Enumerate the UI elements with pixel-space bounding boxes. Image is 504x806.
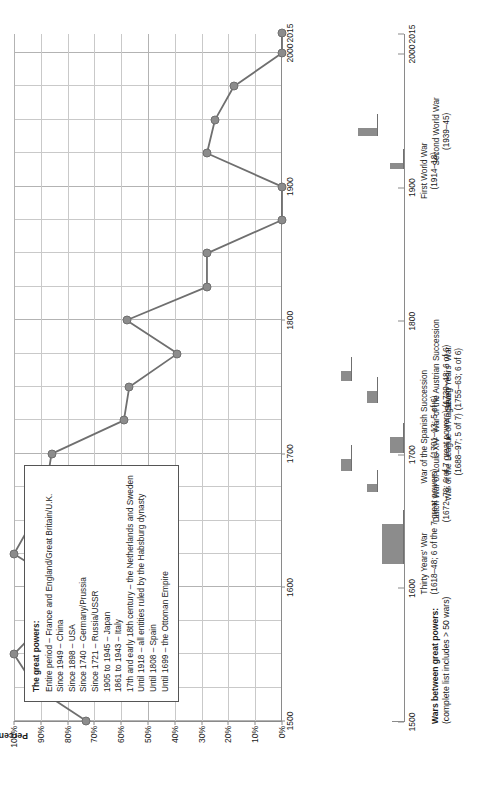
legend-item: Since 1898 – USA bbox=[67, 475, 79, 692]
figure: 0%10%20%30%40%50%60%70%80%90%100%1500160… bbox=[0, 0, 504, 806]
y-axis-tick-label: 70% bbox=[89, 726, 99, 768]
x-axis-tick-label: 1800 bbox=[285, 311, 295, 330]
wars-axis-tick-label: 1700 bbox=[407, 445, 417, 464]
war-caption-detail: (1755–63; 6 of 6) bbox=[454, 347, 464, 412]
data-point-marker bbox=[278, 49, 287, 58]
legend-item: Since 1949 – China bbox=[55, 475, 67, 692]
data-point-marker bbox=[202, 149, 211, 158]
y-axis-tick-mark bbox=[255, 721, 256, 725]
wars-axis-tick-label: 1900 bbox=[407, 178, 417, 197]
x-axis-tick-label: 1500 bbox=[285, 712, 295, 731]
y-axis-tick-mark bbox=[121, 721, 122, 725]
legend-title: The great powers: bbox=[31, 475, 43, 692]
war-caption-name: Seven Years' War bbox=[444, 347, 454, 412]
y-axis-tick-label: 20% bbox=[223, 726, 233, 768]
y-axis-tick-label: 40% bbox=[170, 726, 180, 768]
war-leader-line bbox=[403, 510, 404, 564]
x-axis-tick-label: 2015 bbox=[285, 24, 295, 43]
wars-panel-heading: Wars between great powers: (complete lis… bbox=[430, 597, 452, 724]
x-axis-tick-label: 2000 bbox=[285, 44, 295, 63]
y-axis-tick-label: 0% bbox=[277, 726, 287, 768]
wars-axis-tick-mark bbox=[398, 321, 404, 322]
wars-axis-tick-label: 1600 bbox=[407, 579, 417, 598]
y-axis-tick-label: 80% bbox=[63, 726, 73, 768]
data-point-marker bbox=[82, 717, 91, 726]
legend-item: 17th and early 18th century – the Nether… bbox=[125, 475, 137, 692]
data-point-marker bbox=[278, 29, 287, 38]
war-caption-detail: (1939–45) bbox=[442, 97, 452, 165]
great-powers-legend: The great powers: Entire period – France… bbox=[24, 465, 179, 702]
y-axis-tick-mark bbox=[282, 721, 283, 725]
wars-axis-tick-mark bbox=[398, 588, 404, 589]
legend-item: 1861 to 1943 – Italy bbox=[113, 475, 125, 692]
y-axis-tick-label: 90% bbox=[36, 726, 46, 768]
wars-axis-tick-mark bbox=[398, 187, 404, 188]
y-axis-tick-mark bbox=[67, 721, 68, 725]
legend-item: Until 1808 – Spain bbox=[148, 475, 160, 692]
war-bar bbox=[358, 128, 378, 136]
war-leader-line bbox=[351, 445, 352, 471]
x-axis-tick-label: 1600 bbox=[285, 578, 295, 597]
war-caption-name: War of the Spanish Succession bbox=[420, 370, 430, 483]
y-axis-tick-label: 60% bbox=[116, 726, 126, 768]
war-leader-line bbox=[351, 357, 352, 382]
war-leader-line bbox=[403, 423, 404, 453]
war-leader-line bbox=[377, 377, 378, 403]
war-caption-name: War of the Austrian Succession bbox=[432, 319, 442, 432]
legend-item: Until 1918 – all entities ruled by the H… bbox=[136, 475, 148, 692]
war-caption-name: Second World War bbox=[432, 97, 442, 165]
wars-panel-subtitle: (complete list includes > 50 wars) bbox=[441, 597, 451, 724]
wars-axis-tick-label: 1500 bbox=[407, 713, 417, 732]
war-bar bbox=[382, 524, 404, 564]
data-point-marker bbox=[278, 216, 287, 225]
y-axis-label: Percentage of years in which the great p… bbox=[0, 731, 28, 741]
rotated-figure-stage: 0%10%20%30%40%50%60%70%80%90%100%1500160… bbox=[0, 0, 504, 806]
war-caption: Seven Years' War(1755–63; 6 of 6) bbox=[444, 347, 465, 412]
wars-axis-tick-label: 1800 bbox=[407, 312, 417, 331]
war-caption: Second World War(1939–45) bbox=[432, 97, 453, 165]
data-point-marker bbox=[10, 650, 19, 659]
data-point-marker bbox=[125, 383, 134, 392]
y-axis-tick-label: 10% bbox=[250, 726, 260, 768]
war-bar bbox=[390, 437, 404, 453]
data-point-marker bbox=[173, 349, 182, 358]
x-axis-tick-label: 1900 bbox=[285, 177, 295, 196]
y-axis-tick-mark bbox=[228, 721, 229, 725]
wars-timeline-panel: 1500160017001800190020002015 Thirty Year… bbox=[330, 34, 490, 722]
y-axis-tick-label: 50% bbox=[143, 726, 153, 768]
data-point-marker bbox=[122, 316, 131, 325]
y-axis-tick-mark bbox=[174, 721, 175, 725]
legend-item: Since 1721 – Russia/USSR bbox=[90, 475, 102, 692]
wars-axis-tick-label: 2015 bbox=[407, 25, 417, 44]
wars-axis-tick-mark bbox=[398, 34, 404, 35]
legend-item: 1905 to 1945 – Japan bbox=[102, 475, 114, 692]
y-axis-tick-mark bbox=[14, 721, 15, 725]
y-axis-tick-mark bbox=[94, 721, 95, 725]
y-axis-tick-mark bbox=[201, 721, 202, 725]
wars-axis-line bbox=[404, 34, 405, 722]
data-point-marker bbox=[47, 449, 56, 458]
wars-axis-tick-label: 2000 bbox=[407, 45, 417, 64]
data-point-marker bbox=[202, 249, 211, 258]
war-leader-line bbox=[377, 470, 378, 492]
data-point-marker bbox=[211, 115, 220, 124]
legend-item: Since 1740 – Germany/Prussia bbox=[78, 475, 90, 692]
legend-item: Entire period – France and England/Great… bbox=[44, 475, 56, 692]
wars-axis-tick-mark bbox=[398, 454, 404, 455]
legend-item: Until 1699 – the Ottoman Empire bbox=[160, 475, 172, 692]
data-point-marker bbox=[10, 550, 19, 559]
y-axis-tick-label: 30% bbox=[197, 726, 207, 768]
x-axis-tick-label: 1700 bbox=[285, 444, 295, 463]
wars-axis-tick-mark bbox=[398, 54, 404, 55]
war-caption-name: First World War bbox=[420, 143, 430, 199]
war-caption-name: Thirty Years' War bbox=[420, 469, 430, 595]
y-axis-tick-mark bbox=[40, 721, 41, 725]
data-point-marker bbox=[119, 416, 128, 425]
data-point-marker bbox=[229, 82, 238, 91]
wars-axis-tick-mark bbox=[398, 722, 404, 723]
data-point-marker bbox=[202, 282, 211, 291]
war-leader-line bbox=[377, 114, 378, 136]
wars-panel-title: Wars between great powers: bbox=[430, 608, 440, 724]
war-bar bbox=[390, 163, 404, 169]
war-leader-line bbox=[403, 149, 404, 169]
